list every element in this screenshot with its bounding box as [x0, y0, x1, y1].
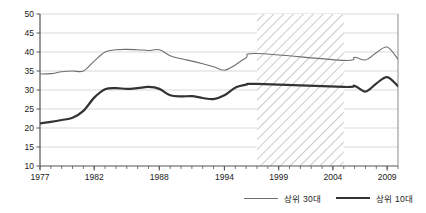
- chart-legend: 상위 30대 상위 10대: [0, 188, 426, 213]
- legend-swatch-top30-icon: [244, 198, 278, 199]
- svg-text:25: 25: [25, 104, 35, 114]
- svg-text:10: 10: [25, 161, 35, 171]
- svg-text:30: 30: [25, 85, 35, 95]
- legend-item-top30: 상위 30대: [244, 192, 321, 204]
- svg-text:1994: 1994: [215, 172, 234, 182]
- chart-container: 101520253035404550 197719821988199419992…: [0, 0, 426, 213]
- svg-text:2004: 2004: [323, 172, 342, 182]
- line-chart-plot: 101520253035404550 197719821988199419992…: [0, 0, 426, 213]
- svg-text:45: 45: [25, 28, 35, 38]
- svg-text:50: 50: [25, 9, 35, 19]
- svg-text:35: 35: [25, 66, 35, 76]
- legend-label-top10: 상위 10대: [376, 192, 413, 204]
- svg-text:2009: 2009: [378, 172, 397, 182]
- legend-item-top10: 상위 10대: [336, 192, 413, 204]
- svg-text:15: 15: [25, 142, 35, 152]
- legend-swatch-top10-icon: [336, 197, 370, 199]
- x-axis-tick-labels: 1977198219881994199920042009: [31, 172, 397, 182]
- svg-text:1999: 1999: [269, 172, 288, 182]
- y-axis-tick-labels: 101520253035404550: [25, 9, 35, 171]
- svg-text:40: 40: [25, 47, 35, 57]
- svg-text:1988: 1988: [150, 172, 169, 182]
- svg-text:1982: 1982: [85, 172, 104, 182]
- shaded-gap-region: [257, 14, 344, 166]
- legend-label-top30: 상위 30대: [284, 192, 321, 204]
- svg-text:20: 20: [25, 123, 35, 133]
- svg-text:1977: 1977: [31, 172, 50, 182]
